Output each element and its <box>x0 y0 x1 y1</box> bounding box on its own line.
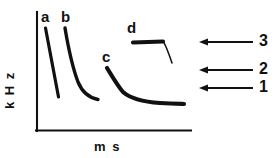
arrow-1 <box>199 85 253 92</box>
curve-label-d: d <box>127 20 136 35</box>
arrow-label-1: 1 <box>259 79 268 95</box>
arrow-2-head <box>199 67 208 74</box>
x-axis-label: m s <box>94 140 121 153</box>
curve-c-path <box>107 68 184 104</box>
curve-b-path <box>65 28 98 100</box>
arrow-label-3: 3 <box>259 33 268 49</box>
y-axis-label: k H z <box>3 71 16 109</box>
arrow-2 <box>199 67 253 74</box>
spectrogram-schematic-figure: k H z m s a b c d 3 2 1 <box>0 0 279 158</box>
curve-d-hook-path <box>164 42 173 63</box>
curve-label-c: c <box>102 49 110 64</box>
curve-label-a: a <box>41 9 49 24</box>
arrow-3 <box>199 39 253 46</box>
arrow-1-head <box>199 85 208 92</box>
curve-d-path <box>133 42 163 43</box>
axes-group <box>36 12 191 131</box>
arrow-label-2: 2 <box>259 61 268 77</box>
arrow-3-head <box>199 39 208 46</box>
curve-label-b: b <box>61 9 70 24</box>
curve-a-path <box>46 28 59 97</box>
